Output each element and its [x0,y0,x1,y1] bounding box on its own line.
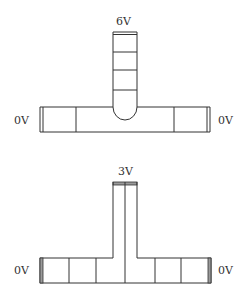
top-stem-voltage-label: 6V [116,15,132,28]
top-right-voltage-label: 0V [218,114,234,127]
bottom-left-voltage-label: 0V [14,264,30,277]
bottom-left-electrode [40,258,43,283]
bottom-right-electrode [208,258,211,283]
bottom-right-voltage-label: 0V [218,264,234,277]
top-figure: 6V 0V 0V [14,15,234,132]
diagram-canvas: 6V 0V 0V 3V 0V 0V [0,0,250,302]
bottom-stem-voltage-label: 3V [118,165,134,178]
top-left-voltage-label: 0V [14,114,30,127]
bottom-figure: 3V 0V 0V [14,165,234,283]
top-stem [113,32,137,120]
